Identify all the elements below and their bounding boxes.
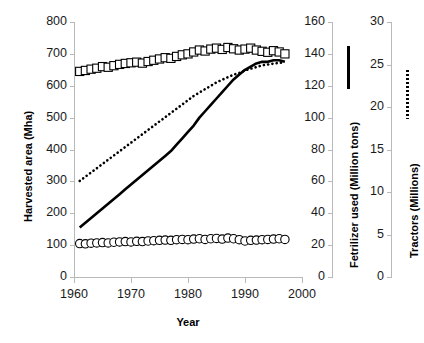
plot-area	[0, 0, 424, 343]
data-point	[281, 50, 289, 58]
series-markers	[76, 43, 289, 75]
series-canvas	[0, 0, 424, 343]
series-dotted-line	[80, 63, 285, 181]
data-point	[281, 235, 289, 243]
series-solid-line	[80, 60, 285, 227]
series-markers	[76, 234, 290, 248]
chart-figure: Harvested area (Mha) Fetrilizer used (Mi…	[0, 0, 424, 343]
